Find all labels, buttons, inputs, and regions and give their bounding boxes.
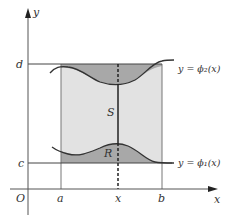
curve-label-phi1: y = ϕ₁(x) xyxy=(177,157,221,168)
y-axis-arrow-icon xyxy=(25,8,31,18)
tick-label-c: c xyxy=(18,157,24,170)
tick-label-a: a xyxy=(57,192,64,205)
double-integral-diagram: y x O d c a x b S R y = ϕ₂(x) y = ϕ₁(x) xyxy=(0,0,233,222)
tick-label-b: b xyxy=(158,192,165,205)
x-axis-arrow-icon xyxy=(208,186,218,192)
origin-label: O xyxy=(16,192,25,205)
y-axis-label: y xyxy=(32,6,40,19)
curve-label-phi2: y = ϕ₂(x) xyxy=(177,63,221,74)
tick-label-x: x xyxy=(115,192,122,205)
tick-label-d: d xyxy=(16,58,23,71)
x-axis-label: x xyxy=(214,193,221,206)
region-label-s: S xyxy=(107,106,115,119)
region-label-r: R xyxy=(103,147,112,160)
